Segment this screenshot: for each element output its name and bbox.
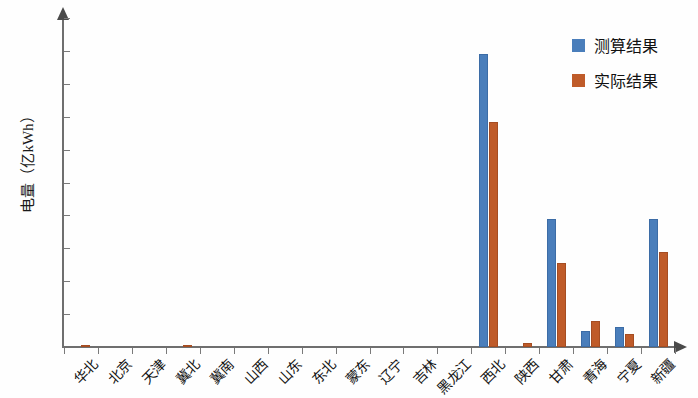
bar-group (234, 18, 268, 347)
legend-swatch-actual-icon (572, 74, 585, 87)
x-axis-tick-mark (166, 348, 167, 354)
bar-group (166, 18, 200, 347)
bar-group (539, 18, 573, 347)
legend-label-actual: 实际结果 (594, 68, 658, 92)
x-axis-tick-label: 新疆 (645, 354, 679, 388)
x-axis-tick-label: 冀北 (170, 354, 204, 388)
legend-item-actual: 实际结果 (572, 68, 658, 92)
bar-measured (649, 219, 658, 347)
x-axis-tick-mark (437, 348, 438, 354)
legend-label-measured: 测算结果 (594, 33, 658, 57)
x-axis-tick-label: 宁夏 (611, 354, 645, 388)
x-axis-tick-label: 西北 (475, 354, 509, 388)
x-axis-tick-mark (132, 348, 133, 354)
x-axis-tick-label: 华北 (68, 354, 102, 388)
bar-actual (489, 122, 498, 347)
x-axis-tick-mark (573, 348, 574, 354)
legend-swatch-measured-icon (572, 39, 585, 52)
x-axis-tick-label: 辽宁 (374, 354, 408, 388)
bar-actual (183, 345, 192, 347)
x-axis-tick-mark (403, 348, 404, 354)
y-axis-title: 电量（亿kWh） (16, 71, 37, 251)
bar-actual (625, 334, 634, 347)
bar-actual (557, 263, 566, 347)
x-axis-tick-mark (64, 348, 65, 354)
x-axis-tick-mark (302, 348, 303, 354)
bar-group (403, 18, 437, 347)
x-axis-tick-mark (607, 348, 608, 354)
x-axis-tick-mark (268, 348, 269, 354)
chart-legend: 测算结果 实际结果 (572, 33, 658, 103)
bar-group (471, 18, 505, 347)
x-axis-tick-label: 蒙东 (340, 354, 374, 388)
bar-measured (615, 327, 624, 347)
bar-actual (591, 321, 600, 347)
bar-group (98, 18, 132, 347)
x-axis-tick-label: 冀南 (204, 354, 238, 388)
bar-chart: 电量（亿kWh） 0102030405060708090100 华北北京天津冀北… (0, 0, 698, 398)
x-axis-tick-mark (200, 348, 201, 354)
bar-actual (81, 345, 90, 347)
x-axis-tick-label: 山西 (238, 354, 272, 388)
x-axis-tick-mark (641, 348, 642, 354)
x-axis-tick-label: 甘肃 (543, 354, 577, 388)
x-axis-tick-mark (539, 348, 540, 354)
bar-group (302, 18, 336, 347)
x-axis-tick-label: 青海 (577, 354, 611, 388)
bar-group (505, 18, 539, 347)
x-axis-tick-label: 东北 (306, 354, 340, 388)
x-axis-tick-mark (675, 348, 676, 354)
bar-actual (659, 252, 668, 347)
bar-measured (547, 219, 556, 347)
bar-group (64, 18, 98, 347)
bar-group (336, 18, 370, 347)
bar-actual (523, 343, 532, 347)
x-axis-tick-mark (234, 348, 235, 354)
x-axis-tick-mark (505, 348, 506, 354)
x-axis-tick-label: 陕西 (509, 354, 543, 388)
x-axis-tick-mark (471, 348, 472, 354)
bar-group (370, 18, 404, 347)
x-axis-tick-mark (370, 348, 371, 354)
x-axis-tick-label: 黑龙江 (432, 354, 476, 398)
x-axis-tick-mark (336, 348, 337, 354)
legend-item-measured: 测算结果 (572, 33, 658, 57)
bar-group (437, 18, 471, 347)
bar-group (200, 18, 234, 347)
bar-measured (581, 331, 590, 347)
bar-group (268, 18, 302, 347)
bar-measured (479, 54, 488, 347)
x-axis-tick-label: 天津 (136, 354, 170, 388)
x-axis-tick-mark (98, 348, 99, 354)
x-axis-tick-label: 山东 (272, 354, 306, 388)
bar-group (132, 18, 166, 347)
x-axis-tick-label: 北京 (102, 354, 136, 388)
